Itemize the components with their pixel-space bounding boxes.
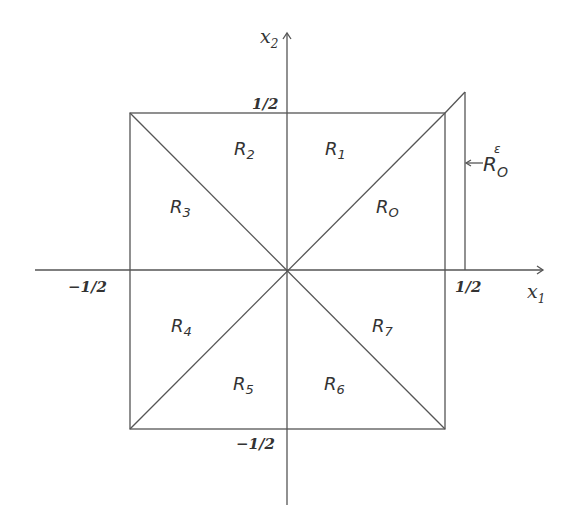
- region-label-r5: R5: [233, 373, 254, 397]
- tick-x-pos: 1/2: [455, 278, 481, 296]
- square-partition-diagram: x1 x2 1/2 −1/2 1/2 −1/2 RO R1 R2 R3 R4 R…: [0, 0, 572, 528]
- region-label-r4: R4: [171, 315, 192, 339]
- tick-y-neg: −1/2: [236, 435, 275, 453]
- tick-x-neg: −1/2: [68, 278, 107, 296]
- region-label-r0: RO: [376, 196, 399, 220]
- x1-axis-label: x1: [527, 280, 545, 306]
- region-label-r2: R2: [234, 138, 255, 162]
- region-label-r1: R1: [325, 138, 346, 162]
- region-label-r6: R6: [324, 373, 345, 397]
- x2-axis-label: x2: [260, 25, 278, 51]
- tick-y-pos: 1/2: [252, 95, 278, 113]
- extension-epsilon-superscript: ε: [494, 142, 501, 156]
- region-label-r7: R7: [372, 315, 394, 339]
- extension-diagonal: [445, 92, 465, 113]
- region-label-r3: R3: [170, 196, 191, 220]
- extension-region-label: RO: [483, 152, 508, 180]
